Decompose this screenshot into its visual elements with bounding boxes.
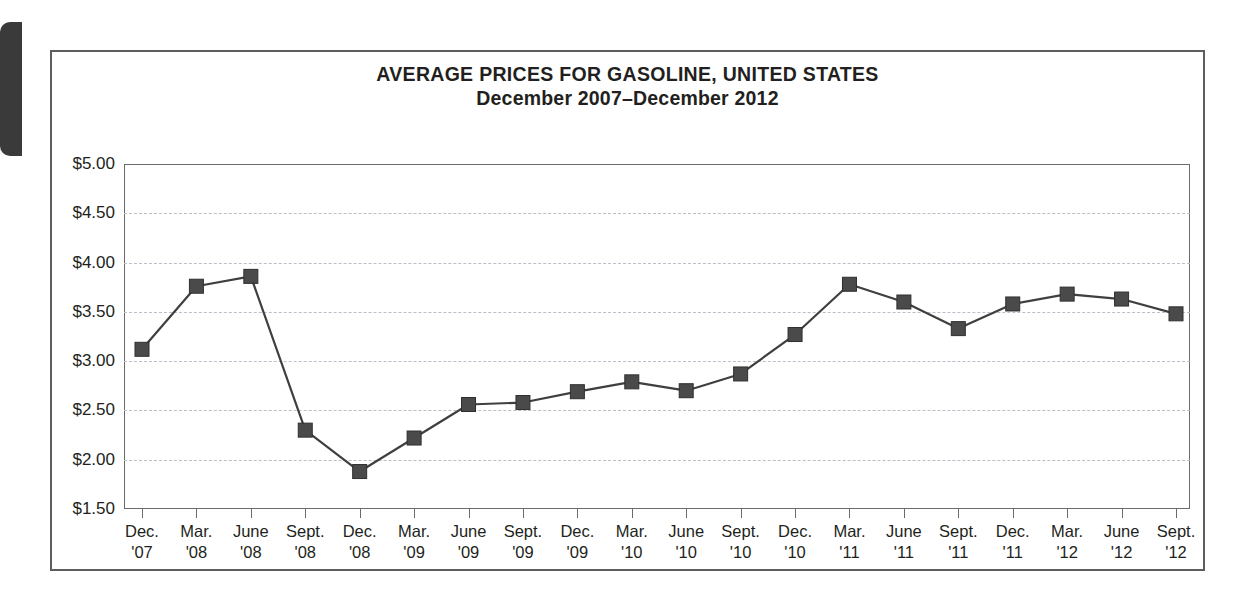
- x-tick-month: June: [668, 522, 704, 540]
- data-point-marker: [244, 269, 258, 283]
- x-axis-tick-label: Dec.'08: [343, 521, 377, 563]
- data-point-marker: [842, 277, 856, 291]
- chart-title-block: AVERAGE PRICES FOR GASOLINE, UNITED STAT…: [52, 62, 1203, 111]
- x-tick-year: '12: [1157, 542, 1196, 563]
- x-axis-tick: [958, 509, 959, 518]
- x-axis-tick: [196, 509, 197, 518]
- x-tick-month: Dec.: [778, 522, 812, 540]
- x-axis-tick: [1013, 509, 1014, 518]
- x-axis-tick: [849, 509, 850, 518]
- x-axis-tick-label: Sept.'11: [939, 521, 978, 563]
- data-point-marker: [570, 385, 584, 399]
- data-point-marker: [353, 465, 367, 479]
- x-tick-year: '08: [233, 542, 269, 563]
- x-axis-tick: [741, 509, 742, 518]
- x-tick-month: June: [451, 522, 487, 540]
- plot-wrapper: $5.00$4.50$4.00$3.50$3.00$2.50$2.00$1.50…: [124, 164, 1190, 509]
- x-tick-year: '09: [504, 542, 543, 563]
- x-tick-month: Sept.: [721, 522, 760, 540]
- x-tick-year: '08: [286, 542, 325, 563]
- x-axis-tick-label: June'11: [886, 521, 922, 563]
- data-point-marker: [298, 423, 312, 437]
- x-tick-month: Mar.: [616, 522, 648, 540]
- x-axis-tick-label: June'09: [451, 521, 487, 563]
- data-point-marker: [1169, 307, 1183, 321]
- y-axis-tick-label: $1.50: [72, 499, 115, 519]
- data-point-marker: [625, 375, 639, 389]
- x-axis-tick-label: Sept.'10: [721, 521, 760, 563]
- x-axis-tick-label: June'12: [1104, 521, 1140, 563]
- x-axis-tick-label: June'08: [233, 521, 269, 563]
- x-tick-year: '11: [886, 542, 922, 563]
- x-tick-month: Mar.: [398, 522, 430, 540]
- data-point-marker: [788, 328, 802, 342]
- data-point-marker: [189, 279, 203, 293]
- data-point-marker: [516, 396, 530, 410]
- x-axis-tick: [795, 509, 796, 518]
- x-axis-tick-label: Dec.'10: [778, 521, 812, 563]
- data-point-marker: [1006, 297, 1020, 311]
- x-axis-tick: [523, 509, 524, 518]
- x-tick-year: '09: [560, 542, 594, 563]
- series-line: [142, 276, 1176, 471]
- x-tick-month: Mar.: [833, 522, 865, 540]
- x-tick-year: '08: [180, 542, 212, 563]
- x-tick-month: Dec.: [996, 522, 1030, 540]
- x-tick-year: '10: [778, 542, 812, 563]
- data-point-marker: [462, 398, 476, 412]
- x-tick-month: June: [1104, 522, 1140, 540]
- x-axis-tick-label: Sept.'12: [1157, 521, 1196, 563]
- x-tick-year: '09: [398, 542, 430, 563]
- x-tick-month: Dec.: [343, 522, 377, 540]
- x-axis-tick: [1122, 509, 1123, 518]
- x-tick-month: Mar.: [1051, 522, 1083, 540]
- x-axis-tick: [305, 509, 306, 518]
- x-axis-tick: [904, 509, 905, 518]
- x-axis-tick-label: Mar.'11: [833, 521, 865, 563]
- x-tick-year: '12: [1104, 542, 1140, 563]
- x-axis-tick: [251, 509, 252, 518]
- data-point-marker: [135, 342, 149, 356]
- x-tick-month: Sept.: [286, 522, 325, 540]
- x-axis-tick-label: Dec.'09: [560, 521, 594, 563]
- y-axis-tick-label: $4.00: [72, 253, 115, 273]
- x-axis-tick: [469, 509, 470, 518]
- y-axis-tick-label: $4.50: [72, 203, 115, 223]
- x-tick-month: Sept.: [939, 522, 978, 540]
- x-axis-tick: [360, 509, 361, 518]
- x-tick-month: Sept.: [504, 522, 543, 540]
- x-axis-tick-label: Mar.'10: [616, 521, 648, 563]
- x-axis-tick: [1176, 509, 1177, 518]
- x-axis-tick: [577, 509, 578, 518]
- x-axis-tick-label: Dec.'07: [125, 521, 159, 563]
- x-tick-year: '11: [996, 542, 1030, 563]
- x-axis-tick: [414, 509, 415, 518]
- x-tick-month: Sept.: [1157, 522, 1196, 540]
- x-tick-month: June: [233, 522, 269, 540]
- data-point-marker: [1115, 292, 1129, 306]
- x-tick-month: Mar.: [180, 522, 212, 540]
- x-tick-month: Dec.: [560, 522, 594, 540]
- data-point-marker: [679, 384, 693, 398]
- x-axis-tick: [686, 509, 687, 518]
- data-point-marker: [734, 367, 748, 381]
- x-tick-year: '10: [721, 542, 760, 563]
- data-point-marker: [897, 295, 911, 309]
- x-axis-tick-label: Mar.'09: [398, 521, 430, 563]
- x-tick-year: '08: [343, 542, 377, 563]
- x-tick-month: June: [886, 522, 922, 540]
- x-axis-tick-label: Sept.'09: [504, 521, 543, 563]
- page-title: AVERAGE PRICES FOR GASOLINE, UNITED STAT…: [52, 62, 1203, 86]
- y-axis-tick-label: $3.50: [72, 302, 115, 322]
- x-tick-year: '12: [1051, 542, 1083, 563]
- data-point-marker: [407, 431, 421, 445]
- y-axis-tick-label: $3.00: [72, 351, 115, 371]
- x-axis-tick-label: Mar.'12: [1051, 521, 1083, 563]
- x-axis-tick-label: June'10: [668, 521, 704, 563]
- x-tick-year: '11: [833, 542, 865, 563]
- y-axis-tick-label: $5.00: [72, 154, 115, 174]
- chart-figure-frame: AVERAGE PRICES FOR GASOLINE, UNITED STAT…: [50, 50, 1205, 571]
- y-axis-tick-label: $2.50: [72, 400, 115, 420]
- x-tick-year: '07: [125, 542, 159, 563]
- data-point-marker: [1060, 287, 1074, 301]
